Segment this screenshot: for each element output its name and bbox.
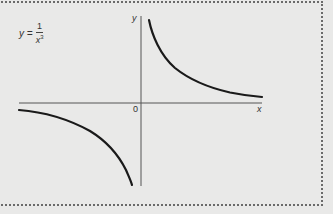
origin-label: 0 (133, 104, 138, 114)
equation-lhs: y = (19, 28, 33, 39)
curve-negative-branch (19, 110, 132, 185)
equation-denominator-exponent: 3 (40, 34, 43, 40)
x-axis-label: x (257, 104, 262, 114)
y-axis-label: y (132, 13, 137, 23)
figure: y = 1 x3 y 0 x (0, 0, 333, 214)
equation-numerator: 1 (36, 22, 43, 33)
equation-fraction: 1 x3 (36, 22, 44, 45)
equation-label: y = 1 x3 (19, 22, 43, 45)
curve-positive-branch (149, 20, 262, 97)
plot-area (0, 0, 333, 214)
equation-denominator: x3 (36, 33, 44, 45)
